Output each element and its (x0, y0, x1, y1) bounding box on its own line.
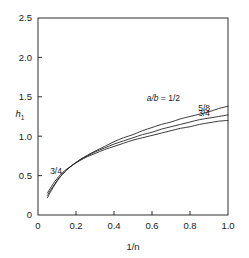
y-tick-label: 0.5 (19, 170, 32, 181)
curve-label-prefix: a/b (147, 93, 159, 103)
annotation-0: 3/4 (50, 166, 62, 176)
y-axis-title-subscript: 1 (21, 114, 25, 121)
y-tick-label: 1.0 (19, 131, 32, 142)
curve-label-2: 3/4 (198, 108, 210, 118)
line-chart: 00.20.40.60.81.0 00.51.01.52.02.5 1/n h1… (0, 0, 249, 258)
x-tick-label: 1.0 (221, 220, 234, 231)
curve-label-value: = 1/2 (158, 93, 180, 103)
x-axis-title: 1/n (126, 241, 139, 252)
x-tick-label: 0.2 (69, 220, 82, 231)
y-tick-label: 1.5 (19, 91, 32, 102)
x-tick-label: 0 (35, 220, 40, 231)
x-tick-label: 0.4 (107, 220, 120, 231)
x-tick-label: 0.8 (183, 220, 196, 231)
x-tick-label: 0.6 (145, 220, 158, 231)
curve-label-0: a/b = 1/2 (147, 93, 181, 103)
chart-figure: 00.20.40.60.81.0 00.51.01.52.02.5 1/n h1… (0, 0, 249, 258)
chart-annotations: 3/4 (50, 166, 62, 176)
y-tick-label: 2.0 (19, 52, 32, 63)
y-tick-label: 2.5 (19, 12, 32, 23)
y-tick-label: 0 (27, 209, 32, 220)
